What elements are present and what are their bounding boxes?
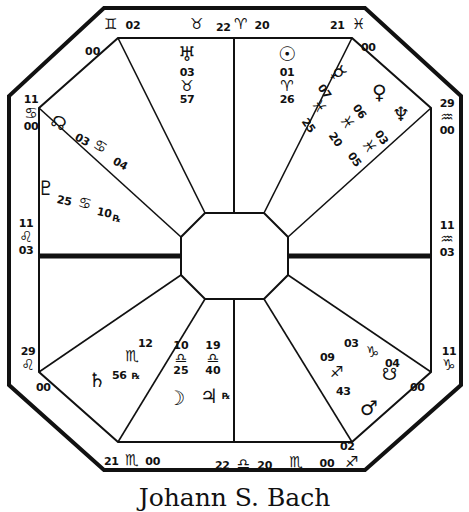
south-node-degree: 03 xyxy=(344,337,359,350)
cusp-top-mid-left-sign: ♉ xyxy=(190,15,203,33)
cusp-right-lower-minute: 00 xyxy=(410,381,425,394)
planet-uranus: ♅ 03 ♉ 57 xyxy=(165,44,209,106)
uranus-sign-icon: ♉ xyxy=(165,79,209,95)
neptune-icon: ♆ xyxy=(392,102,410,126)
cusp-left-lower-sign: ♌ xyxy=(13,358,43,374)
mars-icon: ♂ xyxy=(360,396,378,420)
moon-sign-icon: ♎ xyxy=(168,351,194,365)
pluto-degree: 25 xyxy=(56,193,73,209)
cusp-left-mid-minute: 03 xyxy=(11,245,41,257)
cusp-top-mid-right-minute: 20 xyxy=(255,19,270,32)
mars-sign-wrap: ♐ xyxy=(330,364,343,380)
cusp-top-left-minute-val: 00 xyxy=(85,46,100,57)
cusp-bottom-mid-left: 22 ♎ 20 xyxy=(215,456,272,472)
saturn-degree: 12 xyxy=(138,337,153,350)
cusp-bottom-mid-right-sign: ♏ xyxy=(289,453,302,471)
cusp-bottom-right-sign: ♐ xyxy=(345,453,358,471)
cusp-line-6 xyxy=(288,275,431,372)
cusp-left-upper-minute: 00 xyxy=(16,121,46,133)
jupiter-minute: 40 xyxy=(200,365,226,376)
chart-title: Johann S. Bach xyxy=(0,483,469,512)
cusp-bottom-right: ♐ xyxy=(345,454,358,470)
sun-minute: 26 xyxy=(265,94,309,106)
planet-saturn: ♄ xyxy=(88,370,106,390)
cusp-top-right: 21 ♓ xyxy=(330,16,365,32)
cusp-bottom-left-minute: 00 xyxy=(145,455,160,468)
cusp-top-left-group: ♊ 02 xyxy=(104,16,140,32)
planet-neptune: ♆ xyxy=(392,104,410,124)
planet-sun: ☉ 01 ♈ 26 xyxy=(265,44,309,106)
cusp-left-mid: 11 ♌ 03 xyxy=(11,218,41,257)
sun-sign-icon: ♈ xyxy=(265,79,309,95)
cusp-top-left-sign: ♊ xyxy=(104,15,117,33)
cusp-top-right-minute-wrap: 00 xyxy=(361,38,376,54)
planet-pluto: ♇ xyxy=(37,178,55,198)
south-node-degree-wrap: 03 xyxy=(344,334,359,350)
south-node-sign-wrap: ♑ xyxy=(366,344,379,360)
saturn-sign-icon: ♏ xyxy=(125,347,138,365)
cusp-right-lower-minute-wrap: 00 xyxy=(410,378,425,394)
cusp-left-lower-minute: 00 xyxy=(36,381,51,394)
cusp-right-mid-sign: ♒ xyxy=(432,232,462,248)
planet-mars: ♂ xyxy=(360,398,378,418)
planet-moon: ☽ xyxy=(167,388,185,408)
pluto-icon: ♇ xyxy=(37,176,55,200)
saturn-minute: 56 xyxy=(112,369,127,382)
moon-minute: 25 xyxy=(168,365,194,376)
pluto-minute: 10 xyxy=(96,205,113,221)
south-node-sign-icon: ♑ xyxy=(366,343,379,361)
planet-moon-position: 10 ♎ 25 xyxy=(168,340,194,376)
cusp-bottom-mid-left-degree: 22 xyxy=(215,459,230,472)
cusp-bottom-right-degree: 02 xyxy=(340,440,355,453)
sun-icon: ☉ xyxy=(265,44,309,65)
planet-south-node: ☋ xyxy=(382,366,397,383)
saturn-retrograde-icon: ℞ xyxy=(132,371,140,381)
cusp-right-mid-minute: 03 xyxy=(432,247,462,259)
cusp-left-lower-minute-wrap: 00 xyxy=(36,378,51,394)
cusp-right-upper-sign: ♒ xyxy=(432,110,462,126)
cusp-top-mid-left-degree: 22 xyxy=(216,21,231,34)
jupiter-retrograde-wrap: ℞ xyxy=(222,386,230,402)
cusp-bottom-left-degree: 21 xyxy=(104,455,119,468)
cusp-bottom-mid-right: ♏ 00 xyxy=(289,454,334,470)
saturn-degree-wrap: 12 xyxy=(138,334,153,350)
saturn-minute-wrap: 56 ℞ xyxy=(112,366,140,382)
cusp-top-mid-left-degree-wrap: 22 xyxy=(216,18,231,34)
cusp-top-left-degree: 02 xyxy=(126,19,141,32)
moon-icon: ☽ xyxy=(167,386,185,410)
cusp-bottom-left-sign: ♏ xyxy=(125,451,138,469)
planet-venus: ♀ xyxy=(372,82,387,102)
jupiter-icon: ♃ xyxy=(200,384,218,408)
cusp-right-upper-minute: 00 xyxy=(432,125,462,137)
cusp-left-upper-sign: ♋ xyxy=(16,106,46,122)
venus-icon: ♀ xyxy=(372,80,387,104)
pluto-minute-wrap: 10 xyxy=(96,202,114,221)
cusp-right-lower-sign: ♑ xyxy=(434,358,464,374)
mars-minute-wrap: 43 xyxy=(336,382,351,398)
cusp-top-right-degree: 21 xyxy=(330,19,345,32)
cusp-bottom-left: 21 ♏ 00 xyxy=(104,452,160,468)
mars-minute: 43 xyxy=(336,385,351,398)
planet-jupiter-position: 19 ♎ 40 xyxy=(200,340,226,376)
cusp-bottom-right-degree-wrap: 02 xyxy=(340,437,355,453)
cusp-top-mid-right-sign: ♈ xyxy=(234,15,247,33)
cusp-left-upper: 11 ♋ 00 xyxy=(16,94,46,133)
cusp-bottom-mid-left-minute: 20 xyxy=(257,459,272,472)
cusp-left-lower: 29 ♌ xyxy=(13,346,43,373)
cusp-right-mid: 11 ♒ 03 xyxy=(432,220,462,259)
uranus-minute: 57 xyxy=(165,94,209,106)
cusp-right-upper: 29 ♒ 00 xyxy=(432,98,462,137)
cusp-top-right-minute: 00 xyxy=(361,41,376,54)
cusp-top-mid-left: ♉ xyxy=(190,16,203,32)
cusp-top-mid-right: ♈ 20 xyxy=(234,16,269,32)
cusp-left-mid-sign: ♌ xyxy=(11,230,41,246)
uranus-icon: ♅ xyxy=(165,44,209,65)
planet-jupiter: ♃ xyxy=(200,386,218,406)
cusp-bottom-mid-left-sign: ♎ xyxy=(237,455,250,473)
mars-sign-icon: ♐ xyxy=(330,363,343,381)
saturn-sign-wrap: ♏ xyxy=(125,348,138,364)
mars-degree-wrap: 09 xyxy=(320,348,335,364)
south-node-icon: ☋ xyxy=(382,364,397,384)
